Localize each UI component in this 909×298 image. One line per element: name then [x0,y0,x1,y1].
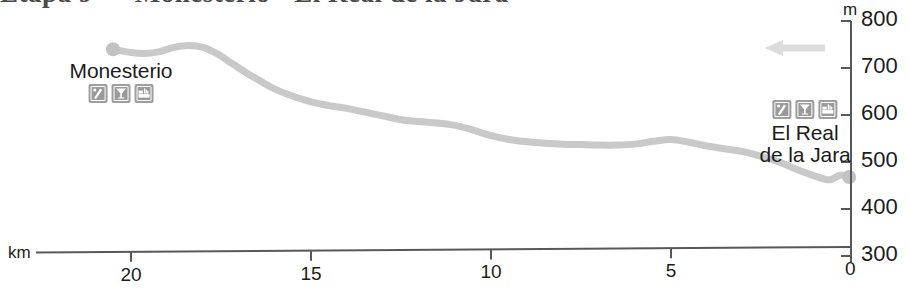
hiking-icon [88,84,107,103]
y-axis-tick-label: 300 [861,241,898,267]
start-marker [106,42,120,56]
markers-group [106,42,856,184]
direction-arrow [765,40,825,56]
elevation-profile-page: Etapa 9 — Monesterio · El Real de la Jar… [0,0,909,298]
x-axis-tick-label: 10 [480,261,501,283]
axis-origin-label: 0 [845,258,856,280]
x-axis-tick-label: 5 [666,260,677,282]
poi-el-real-de-la-jara[interactable]: El Real de la Jara [759,100,850,167]
cocktail-glass-icon [111,84,130,103]
profile-path-group [113,45,849,179]
axes-group [36,21,851,262]
y-axis-tick-label: 500 [861,147,898,173]
cocktail-glass-icon [795,100,814,119]
y-axis-unit-label: m [843,0,857,20]
y-axis-tick-label: 700 [861,53,898,79]
elevation-line [113,45,849,179]
y-axis-tick-label: 800 [861,6,898,32]
direction-arrow-group [765,40,825,56]
y-axis-tick-label: 400 [861,194,898,220]
poi-monesterio-label: Monesterio [70,60,173,82]
poi-el-real-label-line1: El Real [759,122,850,144]
lodging-bed-icon [818,100,837,119]
hiking-icon [772,100,791,119]
x-axis-line [36,247,851,253]
y-axis-tick-label: 600 [861,100,898,126]
x-axis-unit-label: km [8,243,31,263]
x-axis-tick-label: 15 [300,263,321,285]
end-marker [842,170,856,184]
poi-el-real-label-line2: de la Jara [759,144,850,166]
poi-monesterio[interactable]: Monesterio [70,60,173,103]
x-axis-tick-label: 20 [120,264,141,286]
poi-monesterio-icons [70,84,173,103]
poi-el-real-icons [759,100,850,119]
lodging-bed-icon [134,84,153,103]
